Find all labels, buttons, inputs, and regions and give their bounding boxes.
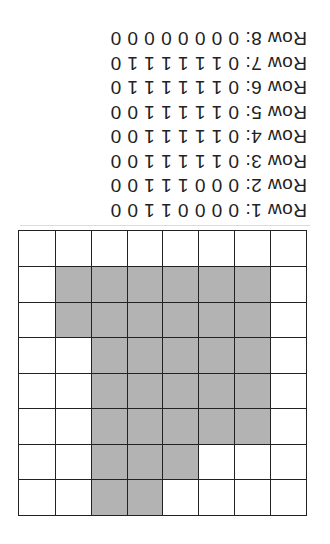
filled-cell	[234, 373, 270, 409]
filled-cell	[234, 409, 270, 445]
empty-cell	[270, 231, 306, 267]
filled-cell	[55, 267, 91, 303]
filled-cell	[127, 373, 163, 409]
filled-cell	[163, 338, 199, 374]
empty-cell	[270, 267, 306, 303]
row-label: Row 6:	[245, 78, 307, 99]
filled-cell	[91, 338, 127, 374]
empty-cell	[163, 480, 199, 516]
empty-cell	[55, 231, 91, 267]
row-encoding-list: Row 1: 0 0 0 0 1 1 0 0 Row 2: 0 0 0 1 1 …	[92, 26, 307, 222]
filled-cell	[127, 267, 163, 303]
empty-cell	[91, 231, 127, 267]
filled-cell	[127, 338, 163, 374]
filled-cell	[163, 302, 199, 338]
empty-cell	[19, 302, 55, 338]
empty-cell	[55, 373, 91, 409]
empty-cell	[270, 444, 306, 480]
filled-cell	[198, 409, 234, 445]
empty-cell	[19, 231, 55, 267]
row-values: 0 0 0 0 0 0 0 0	[110, 29, 239, 50]
empty-cell	[19, 409, 55, 445]
filled-cell	[163, 409, 199, 445]
filled-cell	[234, 267, 270, 303]
filled-cell	[91, 302, 127, 338]
filled-cell	[91, 444, 127, 480]
empty-cell	[19, 373, 55, 409]
row-values: 0 1 1 1 1 1 0 0	[110, 127, 239, 148]
empty-cell	[19, 267, 55, 303]
filled-cell	[198, 373, 234, 409]
empty-cell	[55, 338, 91, 374]
divider	[20, 225, 310, 226]
empty-cell	[234, 231, 270, 267]
empty-cell	[127, 231, 163, 267]
filled-cell	[127, 302, 163, 338]
row-encoding: Row 6: 0 1 1 1 1 1 1 0	[92, 75, 307, 100]
empty-cell	[270, 409, 306, 445]
row-encoding: Row 7: 0 1 1 1 1 1 1 0	[92, 51, 307, 76]
empty-cell	[198, 480, 234, 516]
row-label: Row 5:	[245, 102, 307, 123]
empty-cell	[198, 231, 234, 267]
empty-cell	[270, 480, 306, 516]
filled-cell	[234, 302, 270, 338]
row-label: Row 7:	[245, 53, 307, 74]
empty-cell	[270, 338, 306, 374]
empty-cell	[19, 444, 55, 480]
row-label: Row 1:	[245, 200, 307, 221]
row-encoding: Row 3: 0 1 1 1 1 1 0 0	[92, 149, 307, 174]
row-encoding: Row 4: 0 1 1 1 1 1 0 0	[92, 124, 307, 149]
filled-cell	[91, 267, 127, 303]
filled-cell	[127, 444, 163, 480]
empty-cell	[234, 444, 270, 480]
row-encoding: Row 1: 0 0 0 0 1 1 0 0	[92, 198, 307, 223]
row-encoding: Row 2: 0 0 0 1 1 1 0 0	[92, 173, 307, 198]
empty-cell	[55, 409, 91, 445]
binary-image-diagram: Row 1: 0 0 0 0 1 1 0 0 Row 2: 0 0 0 1 1 …	[0, 0, 330, 544]
row-values: 0 0 0 1 1 1 0 0	[110, 176, 239, 197]
filled-cell	[198, 302, 234, 338]
filled-cell	[234, 338, 270, 374]
filled-cell	[163, 444, 199, 480]
empty-cell	[55, 444, 91, 480]
empty-cell	[19, 338, 55, 374]
empty-cell	[55, 480, 91, 516]
filled-cell	[91, 480, 127, 516]
filled-cell	[163, 373, 199, 409]
empty-cell	[19, 480, 55, 516]
row-label: Row 4:	[245, 127, 307, 148]
filled-cell	[91, 409, 127, 445]
empty-cell	[163, 231, 199, 267]
row-label: Row 3:	[245, 151, 307, 172]
pixel-grid	[18, 230, 307, 516]
filled-cell	[91, 373, 127, 409]
empty-cell	[270, 373, 306, 409]
row-values: 0 0 0 0 1 1 0 0	[110, 200, 239, 221]
row-label: Row 2:	[245, 176, 307, 197]
row-values: 0 1 1 1 1 1 0 0	[110, 151, 239, 172]
filled-cell	[163, 267, 199, 303]
empty-cell	[198, 444, 234, 480]
row-values: 0 1 1 1 1 1 1 0	[110, 53, 239, 74]
empty-cell	[270, 302, 306, 338]
row-values: 0 1 1 1 1 1 1 0	[110, 78, 239, 99]
row-values: 0 1 1 1 1 1 0 0	[110, 102, 239, 123]
filled-cell	[127, 409, 163, 445]
filled-cell	[198, 338, 234, 374]
row-encoding: Row 5: 0 1 1 1 1 1 0 0	[92, 100, 307, 125]
empty-cell	[234, 480, 270, 516]
row-encoding: Row 8: 0 0 0 0 0 0 0 0	[92, 26, 307, 51]
row-label: Row 8:	[245, 29, 307, 50]
filled-cell	[55, 302, 91, 338]
filled-cell	[127, 480, 163, 516]
filled-cell	[198, 267, 234, 303]
